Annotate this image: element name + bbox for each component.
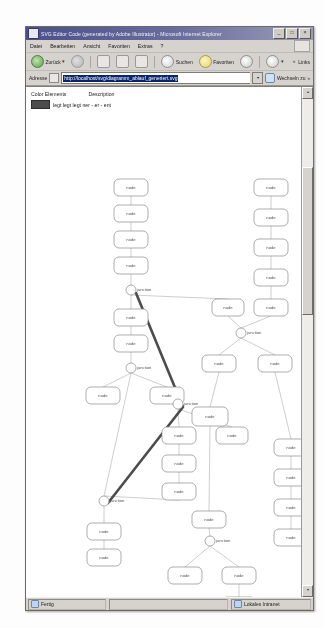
search-button[interactable]: Suchen [159,55,194,68]
toolbar-separator-2 [154,56,155,68]
title-bar: SVG Editor Code (generated by Adobe Illu… [26,27,313,40]
svg-diagram-canvas[interactable]: Color Elements Description legt legt leg… [26,87,301,597]
back-label: Zurück [46,59,61,65]
favorites-button[interactable]: Favoriten [197,55,236,68]
graph-edge [219,338,241,355]
graph-junction-node[interactable] [236,328,246,338]
back-caret-icon[interactable]: ▾ [62,59,65,64]
graph-node-label: node [174,489,184,494]
menu-item-ansicht[interactable]: Ansicht [83,43,100,49]
graph-node-label: node [223,305,233,310]
stop-icon [97,55,110,68]
graph-node-label: node [126,237,136,242]
page-icon [49,73,59,83]
menu-item-datei[interactable]: Datei [30,43,42,49]
go-label: Wechseln zu [277,75,306,81]
star-icon [199,55,212,68]
status-done-icon [31,600,39,608]
navigation-toolbar: Zurück ▾ Suchen Favorite [26,53,313,71]
graph-node-label: node [270,361,280,366]
scroll-track[interactable] [302,99,313,585]
graph-node-label: junction [246,330,262,335]
media-button[interactable] [238,55,255,68]
history-caret-icon[interactable]: ▾ [281,59,284,64]
toolbar-overflow-chevron[interactable]: » [293,59,296,64]
graph-junction-node[interactable] [126,363,136,373]
graph-node-label: node [174,433,184,438]
graph-node-label: node [266,275,276,280]
address-input[interactable]: http://localhost/svg/diagramm_ablauf_gen… [61,72,250,84]
diagram-graph: nodenodenodenodejunctionnodenodejunction… [26,87,301,597]
graph-edge [131,373,167,387]
graph-node-label: junction [183,401,199,406]
graph-node-label: node [99,555,109,560]
address-dropdown-icon[interactable]: ▾ [252,72,263,84]
vertical-scrollbar[interactable]: ▴ ▾ [301,87,313,597]
graph-junction-node[interactable] [173,399,183,409]
graph-node-label: node [126,263,136,268]
toolbar-separator-3 [259,56,260,68]
back-arrow-icon [31,55,44,68]
graph-node-label: node [126,315,136,320]
graph-node-label: node [227,433,237,438]
graph-node-label: node [266,245,276,250]
graph-edge [103,373,131,387]
address-url-text: http://localhost/svg/diagramm_ablauf_gen… [63,75,178,82]
menu-bar: Datei Bearbeiten Ansicht Favoriten Extra… [26,40,313,53]
history-icon [266,55,279,68]
graph-node-label: node [286,535,296,540]
maximize-button[interactable]: □ [286,28,298,39]
graph-node-label: node [266,305,276,310]
scroll-thumb[interactable] [302,167,313,315]
graph-junction-node[interactable] [126,285,136,295]
history-button[interactable]: ▾ [264,55,286,68]
scroll-down-button[interactable]: ▾ [302,585,313,597]
menu-item-favoriten[interactable]: Favoriten [108,43,130,49]
browser-window: SVG Editor Code (generated by Adobe Illu… [25,26,314,611]
graph-node-label: node [180,573,190,578]
address-bar: Adresse http://localhost/svg/diagramm_ab… [26,71,313,86]
zone-icon [234,600,242,608]
refresh-button[interactable] [114,55,131,68]
graph-edge [210,372,219,407]
go-arrow-icon [265,73,275,83]
close-button[interactable]: × [299,28,311,39]
graph-junction-node[interactable] [99,496,109,506]
status-zone: Lokales Intranet [231,599,311,610]
graph-node-label: node [204,517,214,522]
graph-node-label: junction [215,538,231,543]
graph-junction-node[interactable] [205,536,215,546]
favorites-label: Favoriten [213,59,234,65]
media-icon [240,55,253,68]
search-icon [161,55,174,68]
forward-button[interactable] [69,55,86,68]
address-overflow-chevron[interactable]: » [307,76,310,81]
graph-node-label: node [286,445,296,450]
page-root: SVG Editor Code (generated by Adobe Illu… [0,0,324,628]
content-area: Color Elements Description legt legt leg… [26,86,313,597]
forward-arrow-icon [71,55,84,68]
menu-item-bearbeiten[interactable]: Bearbeiten [50,43,75,49]
graph-node-label: node [286,475,296,480]
home-button[interactable] [133,55,150,68]
scroll-up-button[interactable]: ▴ [302,87,313,99]
graph-node-label: node [126,341,136,346]
graph-edge [185,546,210,567]
address-label: Adresse [29,75,47,81]
graph-edge [209,426,210,511]
stop-button[interactable] [95,55,112,68]
menu-item-extras[interactable]: Extras [138,43,153,49]
go-button[interactable]: Wechseln zu [265,73,305,83]
toolbar-links-label[interactable]: Links [298,59,310,65]
graph-node-label: node [266,215,276,220]
graph-edge [228,316,241,328]
graph-edge [210,546,239,567]
window-controls: _ □ × [273,28,311,39]
graph-node-label: node [234,573,244,578]
back-button[interactable]: Zurück ▾ [29,55,67,68]
graph-node-label: node [126,211,136,216]
minimize-button[interactable]: _ [273,28,285,39]
home-icon [135,55,148,68]
menu-item-help[interactable]: ? [161,43,164,49]
status-bar: Fertig Lokales Intranet [26,597,313,610]
